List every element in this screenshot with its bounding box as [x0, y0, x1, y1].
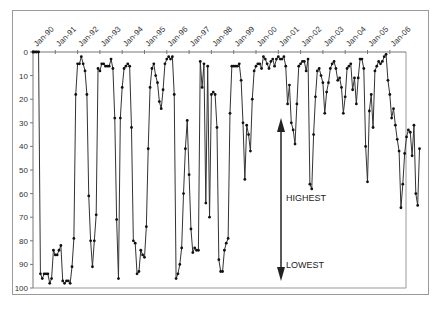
data-point — [253, 69, 256, 72]
data-point — [227, 237, 230, 240]
data-point — [316, 69, 319, 72]
y-tick-label: 70 — [19, 213, 28, 222]
data-point — [112, 67, 115, 70]
data-point — [368, 110, 371, 113]
y-tick-label: 60 — [19, 190, 28, 199]
data-point — [110, 58, 113, 61]
data-point — [377, 60, 380, 63]
data-point — [247, 133, 250, 136]
x-tick-label: Jan-90 — [32, 24, 56, 48]
data-point — [269, 60, 272, 63]
data-point — [199, 60, 202, 63]
data-point — [264, 58, 267, 61]
data-point — [164, 62, 167, 65]
x-tick-label: Jan-02 — [300, 24, 324, 48]
x-tick-label: Jan-93 — [99, 24, 123, 48]
data-point — [318, 67, 321, 70]
data-point — [249, 150, 252, 153]
data-point — [245, 124, 248, 127]
data-point — [299, 62, 302, 65]
data-point — [84, 69, 87, 72]
data-point — [379, 62, 382, 65]
data-point — [184, 147, 187, 150]
data-point — [327, 81, 330, 84]
data-point — [322, 81, 325, 84]
x-tick-label: Jan-95 — [144, 24, 168, 48]
data-point — [340, 86, 343, 89]
data-point — [344, 95, 347, 98]
y-tick-label: 30 — [19, 119, 28, 128]
data-point — [240, 79, 243, 82]
data-point — [80, 55, 83, 58]
data-point — [78, 62, 81, 65]
data-point — [292, 128, 295, 131]
data-point — [72, 237, 75, 240]
data-point — [338, 77, 341, 80]
double-arrow-icon — [277, 118, 285, 281]
data-point — [74, 93, 77, 96]
data-point — [186, 119, 189, 122]
x-tick-label: Jan-92 — [77, 24, 101, 48]
data-point — [349, 62, 352, 65]
x-tick-label: Jan-04 — [344, 24, 368, 48]
data-point — [229, 112, 232, 115]
data-point — [208, 216, 211, 219]
data-point — [91, 265, 94, 268]
data-point — [362, 67, 365, 70]
data-point — [102, 62, 105, 65]
data-point — [193, 246, 196, 249]
data-point — [117, 277, 120, 280]
data-point — [41, 277, 44, 280]
data-point — [323, 112, 326, 115]
data-point — [204, 202, 207, 205]
y-tick-label: 0 — [24, 48, 29, 57]
data-point — [325, 91, 328, 94]
data-point — [238, 62, 241, 65]
data-point — [214, 93, 217, 96]
data-point — [39, 272, 42, 275]
data-point — [177, 272, 180, 275]
x-tick-label: Jan-97 — [188, 24, 212, 48]
data-point — [145, 225, 148, 228]
data-point — [50, 277, 53, 280]
data-point — [374, 69, 377, 72]
data-point — [113, 117, 116, 120]
data-point — [95, 213, 98, 216]
data-point — [149, 86, 152, 89]
data-point — [251, 98, 254, 101]
data-point — [381, 60, 384, 63]
data-point — [217, 258, 220, 261]
data-point — [71, 265, 74, 268]
data-point — [134, 242, 137, 245]
data-point — [351, 88, 354, 91]
data-point — [242, 121, 245, 124]
data-point — [413, 124, 416, 127]
data-point — [210, 93, 213, 96]
data-point — [387, 79, 390, 82]
data-point — [85, 93, 88, 96]
data-point — [258, 62, 261, 65]
data-point — [390, 117, 393, 120]
data-point — [99, 69, 102, 72]
data-point — [169, 58, 172, 61]
data-point — [310, 187, 313, 190]
y-tick-label: 100 — [15, 284, 29, 293]
data-point — [271, 58, 274, 61]
data-point — [87, 195, 90, 198]
data-point — [401, 183, 404, 186]
data-point — [403, 152, 406, 155]
data-point — [171, 55, 174, 58]
data-point — [372, 126, 375, 129]
data-point — [167, 55, 170, 58]
data-point — [67, 280, 70, 283]
data-point — [115, 218, 118, 221]
data-point — [335, 67, 338, 70]
data-point — [197, 249, 200, 252]
data-point — [48, 282, 51, 285]
lowest-label: LOWEST — [286, 260, 325, 270]
data-series — [32, 51, 421, 285]
data-point — [206, 65, 209, 68]
data-point — [190, 228, 193, 231]
x-tick-label: Jan-99 — [233, 24, 257, 48]
line-chart: 0102030405060708090100 Jan-90Jan-91Jan-9… — [0, 0, 441, 309]
